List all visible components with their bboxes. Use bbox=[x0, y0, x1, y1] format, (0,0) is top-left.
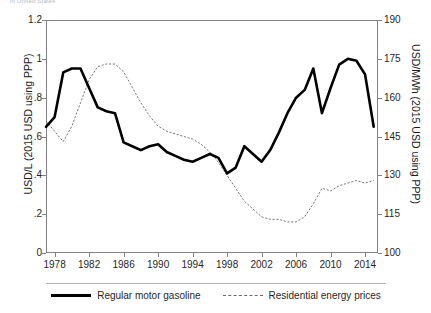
x-axis-tick-mark bbox=[262, 253, 263, 257]
x-axis-tick-mark bbox=[55, 253, 56, 257]
right-axis-tick-label: 190 bbox=[384, 15, 401, 25]
right-axis-tick-mark bbox=[378, 137, 382, 138]
x-axis-tick-mark bbox=[296, 253, 297, 257]
left-axis-tick-mark bbox=[42, 214, 46, 215]
left-axis-tick-mark bbox=[42, 98, 46, 99]
left-axis-tick-mark bbox=[42, 253, 46, 254]
chart-figure: in United States USD/L (2015 USD using P… bbox=[0, 0, 431, 313]
series-line-regular-motor-gasoline bbox=[46, 59, 374, 174]
x-axis-tick-mark bbox=[365, 253, 366, 257]
x-axis-tick-mark bbox=[158, 253, 159, 257]
left-axis-tick-mark bbox=[42, 137, 46, 138]
legend-label-residential: Residential energy prices bbox=[269, 290, 381, 301]
left-axis-tick-label: 1.2 bbox=[28, 15, 42, 25]
left-axis-tick-label: .6 bbox=[34, 132, 42, 142]
x-axis-tick-label: 2014 bbox=[345, 259, 385, 270]
right-axis-tick-mark bbox=[378, 214, 382, 215]
x-axis-tick-mark bbox=[89, 253, 90, 257]
right-axis-tick-label: 130 bbox=[384, 170, 401, 180]
right-axis-tick-mark bbox=[378, 175, 382, 176]
left-axis-tick-label: .2 bbox=[34, 209, 42, 219]
legend-label-gasoline: Regular motor gasoline bbox=[97, 290, 200, 301]
right-axis-tick-label: 145 bbox=[384, 132, 401, 142]
left-axis-tick-mark bbox=[42, 59, 46, 60]
x-axis-tick-mark bbox=[227, 253, 228, 257]
x-axis-tick-mark bbox=[331, 253, 332, 257]
legend-swatch-solid-line-icon bbox=[51, 294, 91, 297]
left-axis-tick-label: .8 bbox=[34, 93, 42, 103]
series-line-residential-energy-prices bbox=[46, 64, 374, 222]
right-axis-tick-mark bbox=[378, 59, 382, 60]
left-axis-tick-mark bbox=[42, 20, 46, 21]
right-axis-tick-label: 160 bbox=[384, 93, 401, 103]
right-axis-tick-mark bbox=[378, 20, 382, 21]
legend-item-regular-motor-gasoline: Regular motor gasoline bbox=[51, 290, 200, 301]
legend-swatch-dotted-line-icon bbox=[223, 295, 263, 296]
right-axis-tick-mark bbox=[378, 253, 382, 254]
left-axis-tick-label: .4 bbox=[34, 170, 42, 180]
x-axis-tick-mark bbox=[193, 253, 194, 257]
left-axis-tick-mark bbox=[42, 175, 46, 176]
right-axis-tick-label: 100 bbox=[384, 248, 401, 258]
legend-item-residential-energy-prices: Residential energy prices bbox=[223, 290, 381, 301]
right-axis-label: USD/MWh (2015 USD using PPP) bbox=[410, 24, 422, 224]
chart-legend: Regular motor gasoline Residential energ… bbox=[46, 283, 386, 306]
x-axis-tick-mark bbox=[124, 253, 125, 257]
right-axis-tick-label: 115 bbox=[384, 209, 400, 219]
left-axis-label: USD/L (2015 USD using PPP) bbox=[22, 24, 34, 224]
right-axis-tick-label: 175 bbox=[384, 54, 401, 64]
right-axis-tick-mark bbox=[378, 98, 382, 99]
series-layer bbox=[46, 20, 378, 253]
